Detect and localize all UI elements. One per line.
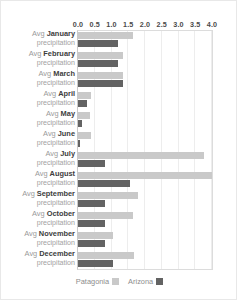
row-label-month: May [61,109,75,118]
x-tick-label-0-0: 0.0 [73,20,83,29]
bar-arizona-february[interactable] [78,60,118,67]
chart-row: Avg Aprilprecipitation [1,90,237,110]
row-label-june: Avg Juneprecipitation [3,130,75,147]
bar-patagonia-march[interactable] [78,72,123,79]
chart-row: Avg Juneprecipitation [1,130,237,150]
bar-group [78,192,213,209]
bar-patagonia-september[interactable] [78,192,138,199]
bar-patagonia-february[interactable] [78,52,123,59]
row-label-line2: precipitation [3,59,75,68]
bar-arizona-june[interactable] [78,140,80,147]
chart-row: Avg Februaryprecipitation [1,50,237,70]
bar-arizona-november[interactable] [78,240,105,247]
row-label-month: September [37,189,75,198]
row-label-line1: Avg January [3,30,75,39]
bar-patagonia-april[interactable] [78,92,91,99]
row-label-month: April [58,89,75,98]
row-label-line2: precipitation [3,239,75,248]
row-label-line2: precipitation [3,119,75,128]
row-label-line2: precipitation [3,219,75,228]
bar-rows: Avg JanuaryprecipitationAvg Februaryprec… [1,30,237,270]
row-label-march: Avg Marchprecipitation [3,70,75,87]
row-label-line2: precipitation [3,139,75,148]
row-label-july: Avg Julyprecipitation [3,150,75,167]
bar-arizona-may[interactable] [78,120,82,127]
row-label-line1: Avg March [3,70,75,79]
row-label-line2: precipitation [3,99,75,108]
bar-arizona-january[interactable] [78,40,118,47]
row-label-month: July [60,149,75,158]
x-tick-label-1-0: 1.0 [106,20,116,29]
chart-row: Avg Julyprecipitation [1,150,237,170]
row-label-september: Avg Septemberprecipitation [3,190,75,207]
chart-row: Avg Marchprecipitation [1,70,237,90]
bar-arizona-august[interactable] [78,180,130,187]
row-label-december: Avg Decemberprecipitation [3,250,75,267]
x-tick-label-4-0: 4.0 [207,20,217,29]
row-label-november: Avg Novemberprecipitation [3,230,75,247]
row-label-line2: precipitation [3,79,75,88]
row-label-line2: precipitation [3,199,75,208]
row-label-february: Avg Februaryprecipitation [3,50,75,67]
bar-patagonia-may[interactable] [78,112,90,119]
row-label-month: March [53,69,75,78]
legend-item-arizona[interactable]: Arizona [128,277,163,286]
bar-arizona-march[interactable] [78,80,123,87]
bar-patagonia-october[interactable] [78,212,133,219]
legend-swatch-arizona [156,278,163,285]
bar-patagonia-december[interactable] [78,252,134,259]
row-label-month: August [50,169,75,178]
row-label-line1: Avg July [3,150,75,159]
bar-patagonia-july[interactable] [78,152,204,159]
bar-group [78,32,213,49]
row-label-line2: precipitation [3,179,75,188]
row-label-line2: precipitation [3,159,75,168]
bar-group [78,232,213,249]
row-label-line1: Avg September [3,190,75,199]
row-label-line1: Avg May [3,110,75,119]
bar-arizona-july[interactable] [78,160,105,167]
bar-group [78,92,213,109]
row-label-line1: Avg November [3,230,75,239]
legend-swatch-patagonia [112,278,119,285]
x-tick-label-2-0: 2.0 [140,20,150,29]
chart-row: Avg Mayprecipitation [1,110,237,130]
bar-patagonia-june[interactable] [78,132,91,139]
bar-arizona-september[interactable] [78,200,105,207]
row-label-line1: Avg August [3,170,75,179]
legend-label: Arizona [128,277,153,286]
bar-group [78,132,213,149]
row-label-line1: Avg April [3,90,75,99]
bar-patagonia-january[interactable] [78,32,133,39]
bar-group [78,252,213,269]
bar-patagonia-august[interactable] [78,172,212,179]
chart-row: Avg Decemberprecipitation [1,250,237,270]
legend-item-patagonia[interactable]: Patagonia [76,277,119,286]
row-label-line1: Avg October [3,210,75,219]
bar-patagonia-november[interactable] [78,232,113,239]
bar-group [78,112,213,129]
bar-group [78,152,213,169]
bar-arizona-december[interactable] [78,260,113,267]
row-label-august: Avg Augustprecipitation [3,170,75,187]
row-label-line1: Avg June [3,130,75,139]
row-label-line1: Avg December [3,250,75,259]
chart-legend: PatagoniaArizona [1,277,237,286]
x-tick-label-3-5: 3.5 [190,20,200,29]
chart-card: 0.00.51.01.52.02.53.03.54.0 Avg Januaryp… [0,0,237,300]
x-tick-label-1-5: 1.5 [123,20,133,29]
row-label-january: Avg Januaryprecipitation [3,30,75,47]
bar-arizona-april[interactable] [78,100,87,107]
x-tick-label-0-5: 0.5 [90,20,100,29]
row-label-month: January [47,29,75,38]
row-label-line2: precipitation [3,259,75,268]
bar-arizona-october[interactable] [78,220,105,227]
x-tick-label-2-5: 2.5 [157,20,167,29]
chart-row: Avg Octoberprecipitation [1,210,237,230]
legend-label: Patagonia [76,277,109,286]
bar-group [78,72,213,89]
chart-row: Avg Novemberprecipitation [1,230,237,250]
row-label-october: Avg Octoberprecipitation [3,210,75,227]
bar-group [78,52,213,69]
bar-group [78,172,213,189]
